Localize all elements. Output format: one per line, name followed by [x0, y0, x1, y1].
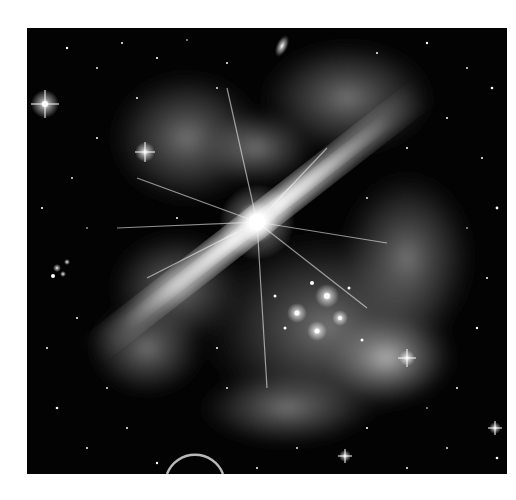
nebula-scene	[27, 28, 507, 474]
planet-arc	[167, 455, 223, 474]
space-illustration	[27, 28, 507, 474]
